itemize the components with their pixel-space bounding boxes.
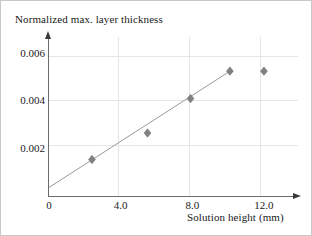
x-tick-label: 0 [46, 199, 52, 211]
x-tick-label: 8.0 [185, 199, 199, 211]
y-axis-tick-labels: 0.0020.0040.006 [1, 1, 45, 236]
markers-group [89, 67, 268, 164]
x-axis-title: Solution height (mm) [187, 211, 284, 223]
data-point-marker [227, 67, 234, 75]
data-point-marker [261, 67, 268, 75]
x-tick-label: 12.0 [254, 199, 273, 211]
y-tick-label: 0.002 [20, 142, 45, 154]
data-point-marker [187, 94, 194, 102]
trendline [49, 71, 230, 187]
x-tick-label: 4.0 [114, 199, 128, 211]
y-tick-label: 0.006 [20, 47, 45, 59]
chart-figure: Normalized max. layer thickness 0.0020.0… [0, 0, 312, 236]
trendline-group [49, 71, 230, 187]
data-point-marker [89, 155, 96, 163]
y-tick-label: 0.004 [20, 94, 45, 106]
data-point-marker [144, 129, 151, 137]
